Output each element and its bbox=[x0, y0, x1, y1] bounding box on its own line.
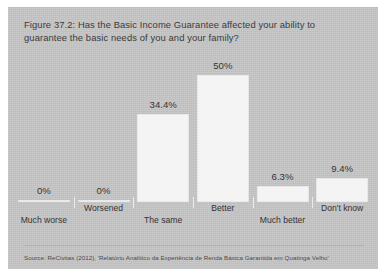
category-label: Don't know bbox=[321, 203, 363, 213]
category-label: The same bbox=[144, 215, 182, 225]
category-label: Better bbox=[211, 203, 234, 213]
chart-panel: Figure 37.2: Has the Basic Income Guaran… bbox=[8, 7, 378, 269]
bar-value-label: 0% bbox=[97, 185, 111, 196]
bar-column: 0% bbox=[74, 62, 134, 202]
bar-value-label: 0% bbox=[37, 185, 51, 196]
bar-column: 6.3% bbox=[253, 62, 313, 202]
bar-value-label: 50% bbox=[213, 60, 232, 71]
bar-value-label: 6.3% bbox=[272, 171, 294, 182]
bar bbox=[197, 75, 249, 202]
category-axis-labels: Much worseWorsenedThe sameBetterMuch bet… bbox=[14, 203, 372, 231]
source-divider bbox=[24, 245, 364, 246]
bar-series: 0%0%34.4%50%6.3%9.4% bbox=[14, 62, 372, 202]
bar-column: 0% bbox=[14, 62, 74, 202]
plot-area: 0%0%34.4%50%6.3%9.4% bbox=[14, 62, 372, 202]
source-note: Source: ReCivitas (2012), 'Relatório Ana… bbox=[24, 253, 369, 262]
category-label: Much better bbox=[260, 215, 305, 225]
figure-title: Figure 37.2: Has the Basic Income Guaran… bbox=[24, 18, 356, 44]
bar-column: 9.4% bbox=[312, 62, 372, 202]
bar-value-label: 9.4% bbox=[331, 163, 353, 174]
bar-column: 50% bbox=[193, 62, 253, 202]
bar-column: 34.4% bbox=[133, 62, 193, 202]
bar-value-label: 34.4% bbox=[150, 99, 177, 110]
category-label: Much worse bbox=[21, 215, 67, 225]
bar bbox=[137, 114, 189, 202]
category-label: Worsened bbox=[84, 203, 123, 213]
figure-container: Figure 37.2: Has the Basic Income Guaran… bbox=[0, 0, 386, 279]
